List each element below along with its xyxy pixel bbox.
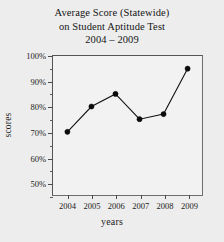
x-tick-label-2004: 2004 (59, 201, 76, 211)
data-point-2004 (65, 129, 70, 134)
y-tick-label-60%: 60% (30, 154, 46, 164)
data-point-2005 (89, 104, 94, 109)
x-tick-2008 (165, 195, 166, 199)
plot-area (53, 56, 202, 195)
series-line-chart (53, 56, 202, 195)
y-minor-tick (50, 69, 53, 70)
x-tick-2005 (92, 195, 93, 199)
chart-title-line-3: 2004 – 2009 (0, 33, 224, 47)
x-tick-label-2007: 2007 (132, 201, 149, 211)
x-tick-2006 (116, 195, 117, 199)
y-minor-tick (50, 197, 53, 198)
data-point-2008 (161, 112, 166, 117)
series-polyline (67, 69, 187, 132)
y-axis-title: scores (3, 113, 13, 138)
x-tick-2009 (189, 195, 190, 199)
data-point-2009 (185, 66, 190, 71)
chart-title-line-1: Average Score (Statewide) (0, 6, 224, 20)
y-tick-label-90%: 90% (30, 77, 46, 87)
y-tick-100% (48, 56, 53, 57)
x-tick-label-2006: 2006 (108, 201, 125, 211)
y-minor-tick (50, 94, 53, 95)
y-tick-70% (48, 133, 53, 134)
y-tick-60% (48, 159, 53, 160)
chart-page: Average Score (Statewide) on Student Apt… (0, 0, 224, 242)
y-minor-tick (50, 146, 53, 147)
chart-title: Average Score (Statewide) on Student Apt… (0, 6, 224, 47)
y-tick-80% (48, 107, 53, 108)
x-tick-2004 (68, 195, 69, 199)
y-tick-label-70%: 70% (30, 128, 46, 138)
y-minor-tick (50, 120, 53, 121)
data-point-2007 (137, 117, 142, 122)
x-axis-title: years (0, 216, 224, 227)
y-minor-tick (50, 171, 53, 172)
data-point-2006 (113, 91, 118, 96)
x-tick-label-2008: 2008 (157, 201, 174, 211)
y-tick-label-50%: 50% (30, 179, 46, 189)
y-tick-90% (48, 82, 53, 83)
y-tick-label-80%: 80% (30, 102, 46, 112)
x-tick-2007 (141, 195, 142, 199)
plot-frame: 50%60%70%80%90%100%200420052006200720082… (52, 55, 203, 196)
chart-title-line-2: on Student Aptitude Test (0, 20, 224, 34)
y-tick-50% (48, 184, 53, 185)
x-tick-label-2005: 2005 (83, 201, 100, 211)
y-tick-label-100%: 100% (26, 51, 46, 61)
x-tick-label-2009: 2009 (181, 201, 198, 211)
